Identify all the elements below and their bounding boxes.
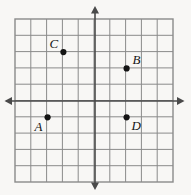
data-point-d [124, 114, 130, 120]
grid-canvas [0, 0, 191, 195]
data-point-b [124, 65, 130, 71]
point-label-c: C [49, 37, 58, 50]
coordinate-grid-figure: A B C D [0, 0, 191, 195]
data-point-c [60, 49, 66, 55]
point-label-a: A [35, 120, 43, 133]
point-label-d: D [132, 119, 141, 132]
point-label-b: B [133, 53, 141, 66]
data-point-a [45, 114, 51, 120]
